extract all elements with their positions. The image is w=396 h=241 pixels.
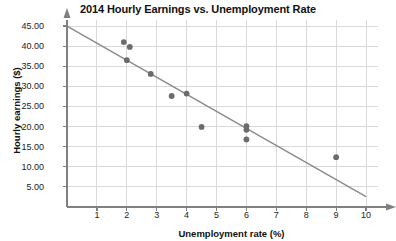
x-axis-tick-label: 7 bbox=[266, 210, 286, 220]
chart-canvas bbox=[67, 20, 378, 207]
data-point[interactable] bbox=[244, 137, 250, 143]
x-axis-label: Unemployment rate (%) bbox=[67, 228, 396, 239]
data-point[interactable] bbox=[199, 124, 205, 130]
y-axis-tick-label: 45.00 bbox=[0, 21, 44, 31]
y-axis-tick-label: 15.00 bbox=[0, 142, 44, 152]
x-axis-tick-label: 1 bbox=[87, 210, 107, 220]
y-axis-tick-label: 25.00 bbox=[0, 101, 44, 111]
data-point[interactable] bbox=[127, 44, 133, 50]
plot-area: 5.0010.0015.0020.0025.0030.0035.0040.004… bbox=[67, 20, 378, 207]
data-point[interactable] bbox=[184, 91, 190, 97]
x-axis-arrow bbox=[386, 204, 396, 211]
data-point[interactable] bbox=[148, 71, 154, 77]
x-axis-tick-label: 9 bbox=[326, 210, 346, 220]
y-axis-tick-label: 5.00 bbox=[0, 182, 44, 192]
x-axis-tick-label: 3 bbox=[147, 210, 167, 220]
data-point[interactable] bbox=[121, 39, 127, 45]
data-point[interactable] bbox=[244, 127, 250, 133]
x-axis-tick-label: 2 bbox=[117, 210, 137, 220]
data-point[interactable] bbox=[169, 93, 175, 99]
y-axis-tick-label: 40.00 bbox=[0, 41, 44, 51]
y-axis-tick-label: 30.00 bbox=[0, 81, 44, 91]
y-axis-tick-label: 35.00 bbox=[0, 61, 44, 71]
x-axis-tick-label: 5 bbox=[207, 210, 227, 220]
data-point[interactable] bbox=[124, 57, 130, 63]
x-axis-tick-label: 6 bbox=[236, 210, 256, 220]
scatter-chart: 2014 Hourly Earnings vs. Unemployment Ra… bbox=[0, 0, 396, 241]
x-axis-tick-label: 8 bbox=[296, 210, 316, 220]
y-axis-tick-label: 20.00 bbox=[0, 122, 44, 132]
chart-title: 2014 Hourly Earnings vs. Unemployment Ra… bbox=[0, 3, 396, 15]
x-axis-tick-label: 10 bbox=[356, 210, 376, 220]
data-point[interactable] bbox=[333, 154, 339, 160]
x-axis-tick-label: 4 bbox=[177, 210, 197, 220]
y-axis-tick-label: 10.00 bbox=[0, 162, 44, 172]
